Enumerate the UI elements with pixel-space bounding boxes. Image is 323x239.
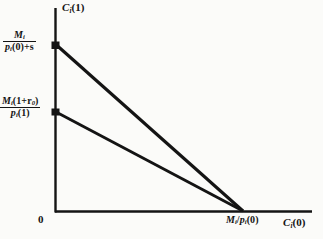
y-axis-label: Ci(1) [62,2,85,15]
lower-numer-base: M [2,95,11,106]
lower-numer-rest: (1+r [13,95,32,106]
lower-numer-close: ) [35,95,38,106]
upper-numer-sub: i [23,33,25,40]
x-axis-label-arg: (0) [292,216,305,228]
budget-constraint-figure: Ci(1) Ci(0) 0 Mi/pi(0) Mi pi(0)+s Mi(1+r… [0,0,323,239]
origin-label: 0 [38,214,44,226]
lower-intercept-label: Mi(1+r0) pi(1) [0,96,40,120]
lower-denom-rest: (1) [18,107,30,118]
upper-intercept-label: Mi pi(0)+s [3,30,36,54]
upper-numer-base: M [14,29,23,40]
lower-intercept-denominator: pi(1) [0,108,40,119]
upper-intercept-marker [52,42,60,50]
upper-intercept-denominator: pi(0)+s [3,42,36,53]
y-axis-label-arg: (1) [71,1,84,13]
upper-intercept-fraction: Mi pi(0)+s [3,30,36,54]
upper-denom-rest: (0)+s [12,41,34,52]
x-intercept-tick-label: Mi/pi(0) [226,215,259,226]
x-axis-label: Ci(0) [283,217,306,230]
lower-intercept-fraction: Mi(1+r0) pi(1) [0,96,40,120]
lower-intercept-marker [52,109,60,116]
endowment-arg: (0) [247,214,259,225]
plot-canvas [0,0,323,239]
endowment-numer-base: M [226,214,235,225]
